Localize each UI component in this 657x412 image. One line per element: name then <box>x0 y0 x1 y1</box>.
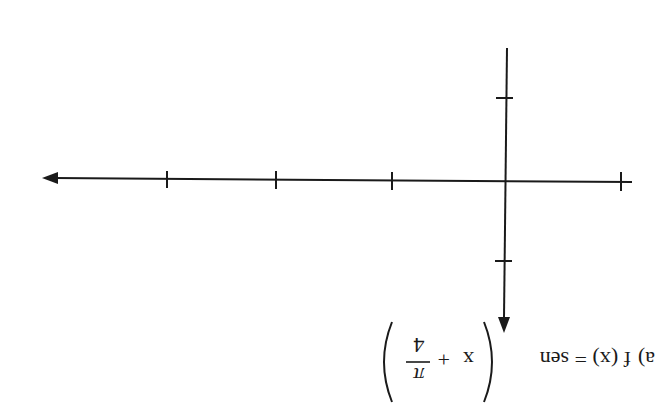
left-paren <box>484 322 492 402</box>
coordinate-plane-figure: a) f (x) = sen x + π 4 <box>0 0 657 412</box>
y-axis <box>495 48 513 333</box>
argument-op: + <box>438 347 450 372</box>
function-lhs: f (x) = sen <box>540 347 631 372</box>
exercise-label: a) <box>638 347 655 372</box>
argument-var: x <box>463 347 474 372</box>
x-axis <box>42 171 632 191</box>
function-label: a) f (x) = sen x + π 4 <box>384 322 655 402</box>
fraction-numerator: π <box>413 363 425 388</box>
right-paren <box>384 322 392 402</box>
x-axis-arrow-icon <box>42 172 58 184</box>
y-axis-arrow-icon <box>498 317 510 333</box>
fraction-denominator: 4 <box>414 333 425 358</box>
